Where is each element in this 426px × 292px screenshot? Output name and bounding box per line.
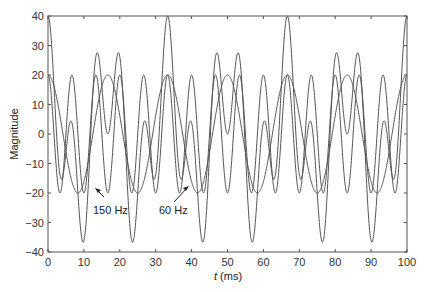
line-chart: 0102030405060708090100−40−30−20−10010203…	[0, 0, 426, 292]
annotation-150hz-label: 150 Hz	[93, 204, 128, 216]
y-tick-label: −40	[25, 246, 44, 258]
y-tick-label: −30	[25, 217, 44, 229]
y-tick-label: 0	[38, 128, 44, 140]
tick-labels: 0102030405060708090100−40−30−20−10010203…	[25, 10, 416, 268]
y-tick-label: −20	[25, 187, 44, 199]
y-tick-label: 10	[32, 99, 44, 111]
x-tick-label: 20	[114, 256, 126, 268]
x-tick-label: 50	[221, 256, 233, 268]
x-tick-label: 90	[365, 256, 377, 268]
annotation-150hz: 150 Hz	[93, 188, 128, 216]
y-tick-label: 40	[32, 10, 44, 22]
x-tick-label: 60	[257, 256, 269, 268]
x-axis-label: t (ms)	[214, 270, 242, 282]
annotation-60hz: 60 Hz	[159, 186, 189, 216]
x-tick-label: 0	[45, 256, 51, 268]
annotation-60hz-label: 60 Hz	[159, 204, 188, 216]
x-tick-label: 70	[293, 256, 305, 268]
y-tick-label: 30	[32, 40, 44, 52]
x-tick-label: 100	[398, 256, 416, 268]
x-tick-label: 30	[150, 256, 162, 268]
y-axis-label: Magnitude	[8, 108, 20, 159]
arrow-head-icon	[95, 188, 101, 193]
x-tick-label: 40	[185, 256, 197, 268]
x-tick-label: 10	[78, 256, 90, 268]
y-tick-label: 20	[32, 69, 44, 81]
arrow-head-icon	[183, 186, 189, 191]
x-axis-label-unit: (ms)	[217, 270, 242, 282]
y-tick-label: −10	[25, 158, 44, 170]
x-tick-label: 80	[329, 256, 341, 268]
